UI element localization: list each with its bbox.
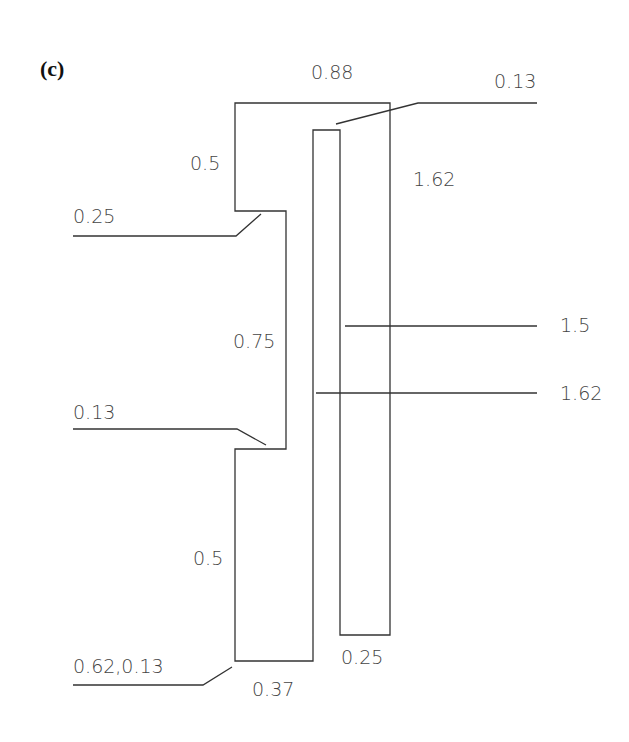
label-lower-left-height: 0.5 bbox=[193, 547, 223, 569]
label-strip-bottom-width: 0.25 bbox=[341, 646, 383, 668]
label-outer-right-height: 1.62 bbox=[413, 168, 455, 190]
label-inner-slot-height: 1.62 bbox=[560, 382, 602, 404]
panel-label: (c) bbox=[40, 56, 64, 81]
structure-outline bbox=[235, 103, 390, 661]
label-inner-gap-top: 0.13 bbox=[494, 70, 536, 92]
leader-0.13-left bbox=[73, 429, 266, 445]
label-step-width-upper: 0.25 bbox=[73, 205, 115, 227]
label-bottom-width: 0.37 bbox=[252, 678, 294, 700]
label-bottom-coords: 0.62,0.13 bbox=[73, 655, 164, 677]
label-top-width: 0.88 bbox=[311, 61, 353, 83]
leader-0.13-top bbox=[336, 103, 537, 124]
label-upper-left-height: 0.5 bbox=[190, 152, 220, 174]
label-step-width-lower: 0.13 bbox=[73, 401, 115, 423]
label-middle-height: 0.75 bbox=[233, 330, 275, 352]
label-strip-height: 1.5 bbox=[560, 314, 590, 336]
antenna-geometry-diagram: (c) 0.88 0.13 1.62 0.5 0.25 0.75 0.13 0.… bbox=[0, 0, 629, 742]
